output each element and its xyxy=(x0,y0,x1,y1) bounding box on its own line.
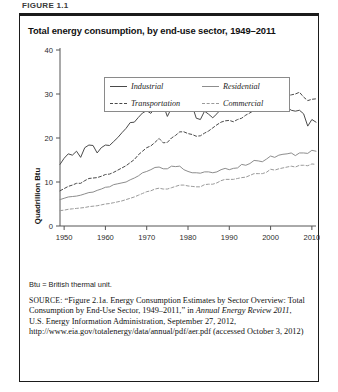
chart-note: Btu = British thermal unit. xyxy=(20,276,318,289)
line-chart: 0102030401950196019701980199020002010 Qu… xyxy=(20,36,320,276)
svg-text:20: 20 xyxy=(45,134,53,143)
series-line-residential xyxy=(60,150,316,199)
legend-label-industrial: Industrial xyxy=(131,82,163,91)
source-italic-title: Annual Energy Review 2011 xyxy=(196,306,290,315)
svg-text:30: 30 xyxy=(45,90,53,99)
source-prefix: SOURCE: xyxy=(29,296,62,305)
svg-text:10: 10 xyxy=(45,178,53,187)
plot-area: 0102030401950196019701980199020002010 Qu… xyxy=(20,36,320,276)
legend-item-transportation: Transportation xyxy=(110,99,202,108)
chart-title: Total energy consumption, by end-use sec… xyxy=(20,16,318,36)
svg-text:1960: 1960 xyxy=(97,233,114,242)
svg-text:40: 40 xyxy=(45,46,53,55)
legend-item-commercial: Commercial xyxy=(202,99,296,108)
chart-axes: 0102030401950196019701980199020002010 xyxy=(45,46,320,242)
source-note: SOURCE: “Figure 2.1a. Energy Consumption… xyxy=(20,289,318,338)
legend-swatch-industrial-icon xyxy=(110,86,127,87)
svg-text:1950: 1950 xyxy=(56,233,73,242)
svg-text:0: 0 xyxy=(49,222,53,231)
legend-item-residential: Residential xyxy=(202,82,296,91)
legend-label-residential: Residential xyxy=(223,82,260,91)
y-axis-title: Quadrillion Btu xyxy=(33,168,42,225)
svg-text:2000: 2000 xyxy=(262,233,279,242)
legend-label-transportation: Transportation xyxy=(131,99,180,108)
svg-text:1980: 1980 xyxy=(180,233,197,242)
svg-text:2010: 2010 xyxy=(303,233,320,242)
legend-swatch-commercial-icon xyxy=(202,103,219,104)
legend-label-commercial: Commercial xyxy=(223,99,263,108)
figure-label: FIGURE 1.1 xyxy=(0,0,338,13)
legend-item-industrial: Industrial xyxy=(110,82,202,91)
legend-swatch-transportation-icon xyxy=(110,103,127,104)
svg-text:1970: 1970 xyxy=(138,233,155,242)
chart-legend: Industrial Residential Transportation Co… xyxy=(104,77,290,112)
legend-swatch-residential-icon xyxy=(202,86,219,87)
svg-text:1990: 1990 xyxy=(221,233,238,242)
figure-box: Total energy consumption, by end-use sec… xyxy=(19,13,319,382)
